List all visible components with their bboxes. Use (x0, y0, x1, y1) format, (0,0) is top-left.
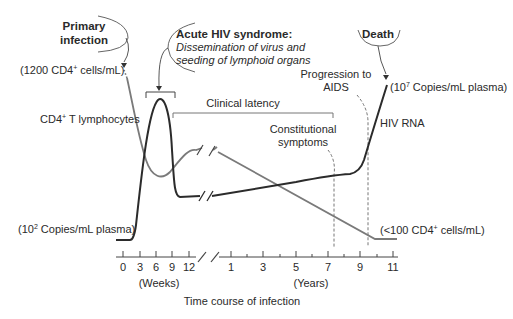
acute-syndrome-callout: Acute HIV syndrome: Dissemination of vir… (146, 23, 311, 98)
clinical-latency-label: Clinical latency (206, 97, 280, 109)
tick-label-years: 7 (325, 261, 331, 273)
rna-high-label: (107 Copies/mL plasma) (390, 81, 507, 93)
tick-label-weeks: 6 (153, 261, 159, 273)
constitutional-dashed-line (328, 150, 334, 247)
tick-label-weeks: 0 (120, 261, 126, 273)
constitutional-label-1: Constitutional (270, 123, 337, 135)
x-axis: 0 3 6 9 12 1 3 5 7 9 11 (Weeks) (Years) … (116, 251, 399, 307)
hiv-time-course-diagram: Primary infection Acute HIV syndrome: Di… (0, 0, 513, 319)
primary-infection-line1: Primary (63, 20, 106, 32)
cd4-curve-label: CD4+ T lymphocytes (40, 113, 140, 125)
acute-syndrome-title: Acute HIV syndrome: (176, 28, 292, 40)
hiv-rna-label: HIV RNA (380, 117, 425, 129)
tick-label-years: 11 (387, 261, 398, 273)
cd4-acute-segment (127, 78, 202, 176)
primary-infection-line2: infection (60, 34, 108, 46)
cd4-end-label: (<100 CD4+ cells/mL) (380, 224, 485, 236)
callout-arrow-line (159, 48, 168, 86)
cd4-dotted-start (124, 70, 127, 78)
years-unit-label: (Years) (293, 277, 328, 289)
tick-label-weeks: 3 (137, 261, 143, 273)
progression-label-2: AIDS (323, 81, 349, 93)
rna-low-label: (102 Copies/mL plasma) (18, 223, 135, 235)
primary-infection-callout: Primary infection (60, 16, 129, 68)
clinical-latency-bracket: Clinical latency (173, 97, 333, 118)
acute-syndrome-line2: seeding of lymphoid organs (176, 54, 311, 66)
tick-label-years: 1 (228, 261, 234, 273)
cd4-decline-segment (218, 152, 397, 239)
x-axis-title: Time course of infection (184, 295, 300, 307)
latency-bracket-line (173, 113, 333, 118)
weeks-unit-label: (Weeks) (139, 277, 180, 289)
arrow-head-icon (156, 86, 162, 91)
acute-syndrome-line1: Dissemination of virus and (176, 41, 306, 53)
callout-arrow-line (378, 46, 386, 74)
acute-phase-bracket (146, 92, 175, 98)
progression-label-1: Progression to (301, 68, 372, 80)
progression-dashed-line (357, 95, 368, 247)
arrow-head-icon (383, 75, 389, 80)
tick-label-weeks: 12 (183, 261, 195, 273)
axis-break-icon (198, 252, 206, 262)
tick-label-years: 3 (260, 261, 266, 273)
tick-label-weeks: 9 (169, 261, 175, 273)
tick-label-years: 5 (293, 261, 299, 273)
cd4-curve (124, 70, 397, 239)
axis-break-icon (209, 146, 215, 156)
tick-label-years: 9 (357, 261, 363, 273)
axis-break-icon (211, 252, 219, 262)
constitutional-label-2: symptoms (278, 136, 329, 148)
death-label: Death (362, 28, 394, 40)
cd4-start-label: (1200 CD4+ cells/mL) (20, 64, 124, 76)
